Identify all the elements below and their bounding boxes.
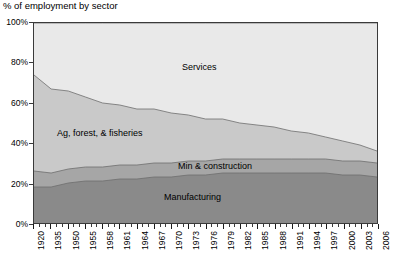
x-tick-label: 1958 <box>106 231 115 250</box>
x-minor-tick <box>56 224 57 227</box>
x-major-tick <box>309 224 310 229</box>
x-minor-tick <box>332 224 333 227</box>
x-tick-label: 1985 <box>261 231 270 250</box>
x-tick-label: 1970 <box>175 231 184 250</box>
x-minor-tick <box>194 224 195 227</box>
x-minor-tick <box>303 224 304 227</box>
x-major-tick <box>188 224 189 229</box>
x-minor-tick <box>211 224 212 227</box>
x-major-tick <box>102 224 103 229</box>
x-minor-tick <box>177 224 178 227</box>
x-major-tick <box>68 224 69 229</box>
x-minor-tick <box>45 224 46 227</box>
x-minor-tick <box>96 224 97 227</box>
x-tick-label: 1955 <box>89 231 98 250</box>
x-minor-tick <box>165 224 166 227</box>
x-major-tick <box>33 224 34 229</box>
x-minor-tick <box>148 224 149 227</box>
x-tick-label: 2000 <box>348 231 357 250</box>
x-minor-tick <box>142 224 143 227</box>
x-tick-label: 1967 <box>158 231 167 250</box>
series-label-min-construction: Min & construction <box>178 161 252 171</box>
x-major-tick <box>240 224 241 229</box>
x-minor-tick <box>62 224 63 227</box>
x-minor-tick <box>131 224 132 227</box>
x-minor-tick <box>217 224 218 227</box>
y-tick-label: 60% <box>11 98 28 107</box>
y-tick-label: 20% <box>11 179 28 188</box>
x-major-tick <box>206 224 207 229</box>
series-label-agriculture: Ag, forest, & fisheries <box>57 128 143 138</box>
x-minor-tick <box>367 224 368 227</box>
x-tick-label: 1982 <box>244 231 253 250</box>
x-minor-tick <box>114 224 115 227</box>
series-label-manufacturing: Manufacturing <box>164 192 221 202</box>
x-tick-label: 2006 <box>382 231 391 250</box>
x-major-tick <box>154 224 155 229</box>
x-tick-label: 1920 <box>37 231 46 250</box>
x-minor-tick <box>315 224 316 227</box>
y-tick-label: 100% <box>6 18 28 27</box>
x-major-tick <box>119 224 120 229</box>
x-minor-tick <box>160 224 161 227</box>
x-tick-label: 1991 <box>296 231 305 250</box>
x-minor-tick <box>280 224 281 227</box>
x-minor-tick <box>200 224 201 227</box>
x-minor-tick <box>349 224 350 227</box>
series-label-services: Services <box>182 62 217 72</box>
x-major-tick <box>275 224 276 229</box>
x-minor-tick <box>246 224 247 227</box>
x-tick-label: 1976 <box>210 231 219 250</box>
y-tick-label: 0% <box>16 220 28 229</box>
x-major-tick <box>137 224 138 229</box>
x-minor-tick <box>263 224 264 227</box>
x-major-tick <box>171 224 172 229</box>
y-axis: 0%20%40%60%80%100% <box>0 22 33 224</box>
x-tick-label: 1979 <box>227 231 236 250</box>
x-minor-tick <box>286 224 287 227</box>
x-minor-tick <box>79 224 80 227</box>
x-minor-tick <box>183 224 184 227</box>
x-major-tick <box>223 224 224 229</box>
x-minor-tick <box>269 224 270 227</box>
x-minor-tick <box>108 224 109 227</box>
x-major-tick <box>257 224 258 229</box>
x-minor-tick <box>321 224 322 227</box>
x-minor-tick <box>229 224 230 227</box>
x-minor-tick <box>73 224 74 227</box>
x-minor-tick <box>252 224 253 227</box>
x-tick-label: 1964 <box>141 231 150 250</box>
x-minor-tick <box>39 224 40 227</box>
y-tick-label: 80% <box>11 58 28 67</box>
x-major-tick <box>378 224 379 229</box>
x-tick-label: 1950 <box>72 231 81 250</box>
x-major-tick <box>326 224 327 229</box>
x-minor-tick <box>338 224 339 227</box>
x-major-tick <box>361 224 362 229</box>
x-tick-label: 1988 <box>279 231 288 250</box>
stacked-area-chart: % of employment by sector 0%20%40%60%80%… <box>0 0 401 266</box>
x-major-tick <box>85 224 86 229</box>
x-tick-label: 1994 <box>313 231 322 250</box>
x-tick-label: 1935 <box>54 231 63 250</box>
x-tick-label: 1973 <box>192 231 201 250</box>
x-minor-tick <box>372 224 373 227</box>
x-axis: 1920193519501955195819611964196719701973… <box>33 224 378 266</box>
x-minor-tick <box>125 224 126 227</box>
x-minor-tick <box>234 224 235 227</box>
x-minor-tick <box>355 224 356 227</box>
x-axis-ticks <box>33 224 378 228</box>
x-tick-label: 1961 <box>123 231 132 250</box>
x-major-tick <box>50 224 51 229</box>
x-minor-tick <box>91 224 92 227</box>
chart-title: % of employment by sector <box>3 0 118 12</box>
x-minor-tick <box>298 224 299 227</box>
y-tick-label: 40% <box>11 139 28 148</box>
x-tick-label: 2003 <box>365 231 374 250</box>
x-major-tick <box>344 224 345 229</box>
x-major-tick <box>292 224 293 229</box>
x-tick-label: 1997 <box>330 231 339 250</box>
